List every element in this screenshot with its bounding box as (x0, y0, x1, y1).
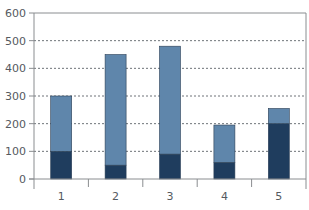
y-tick-label: 500 (5, 35, 26, 48)
bar-segment-bottom (51, 151, 72, 179)
x-tick-label: 2 (112, 190, 119, 203)
y-tick-label: 400 (5, 62, 26, 75)
y-tick-label: 300 (5, 90, 26, 103)
y-tick-label: 100 (5, 145, 26, 158)
x-tick-label: 5 (275, 190, 282, 203)
bar-segment-bottom (268, 124, 289, 179)
y-tick-label: 200 (5, 118, 26, 131)
x-axis: 12345 (29, 179, 306, 203)
x-tick-label: 1 (58, 190, 65, 203)
bar-segment-top (214, 125, 235, 162)
y-tick-label: 600 (5, 7, 26, 20)
bar-segment-bottom (214, 162, 235, 179)
bar-segment-top (105, 55, 126, 166)
bar-segment-bottom (160, 154, 181, 179)
bar-segment-top (51, 96, 72, 151)
bar-segment-top (160, 46, 181, 154)
x-tick-label: 3 (167, 190, 174, 203)
bar-segment-top (268, 108, 289, 123)
bar-segment-bottom (105, 165, 126, 179)
y-tick-label: 0 (19, 173, 26, 186)
y-axis: 0100200300400500600 (5, 7, 34, 189)
bars (51, 46, 290, 179)
stacked-bar-chart: 0100200300400500600 12345 (0, 0, 309, 210)
x-tick-label: 4 (221, 190, 228, 203)
